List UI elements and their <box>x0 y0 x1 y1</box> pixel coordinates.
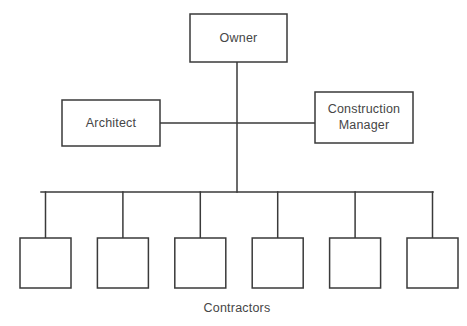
contractor-boxes <box>20 238 458 288</box>
org-chart-diagram: Owner Architect Construction Manager Con… <box>0 0 467 326</box>
node-architect[interactable]: Architect <box>62 100 160 146</box>
contractor-box-5[interactable] <box>330 238 381 288</box>
contractor-box-4[interactable] <box>252 238 303 288</box>
contractor-box-6[interactable] <box>407 238 458 288</box>
contractor-box-2[interactable] <box>97 238 148 288</box>
node-owner[interactable]: Owner <box>190 14 287 62</box>
construction-manager-label-line1: Construction <box>328 102 401 116</box>
contractors-caption: Contractors <box>204 301 271 315</box>
construction-manager-label-line2: Manager <box>339 118 390 132</box>
architect-label: Architect <box>86 116 137 130</box>
node-construction-manager[interactable]: Construction Manager <box>315 92 413 143</box>
diagram-canvas: Owner Architect Construction Manager Con… <box>0 0 467 326</box>
contractor-box-1[interactable] <box>20 238 71 288</box>
owner-label: Owner <box>220 31 258 45</box>
connector-layer <box>41 62 433 238</box>
contractor-box-3[interactable] <box>175 238 226 288</box>
